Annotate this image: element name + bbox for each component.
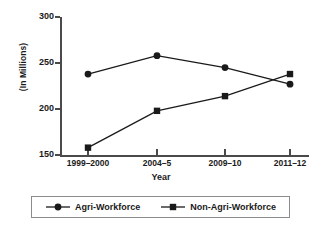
data-point-circle: [287, 81, 294, 88]
circle-marker-icon: [45, 201, 71, 213]
series-line-non-agri-workforce: [88, 74, 290, 148]
square-marker-icon: [160, 201, 186, 213]
data-point-square: [287, 71, 293, 77]
data-point-circle: [154, 52, 161, 59]
legend-item-1[interactable]: Non-Agri-Workforce: [160, 201, 276, 213]
data-point-square: [154, 108, 160, 114]
data-point-circle: [85, 71, 92, 78]
legend-label: Non-Agri-Workforce: [190, 202, 276, 212]
data-point-circle: [222, 64, 229, 71]
data-point-square: [222, 93, 228, 99]
legend-label: Agri-Workforce: [75, 202, 140, 212]
plot-area: [0, 0, 322, 228]
series-line-agri-workforce: [88, 56, 290, 85]
chart-legend: Agri-WorkforceNon-Agri-Workforce: [31, 196, 290, 218]
legend-item-0[interactable]: Agri-Workforce: [45, 201, 140, 213]
data-point-square: [85, 144, 91, 150]
line-chart: (In Millions) 150200250300 1999–20002004…: [0, 0, 322, 228]
x-axis-title: Year: [0, 172, 322, 182]
